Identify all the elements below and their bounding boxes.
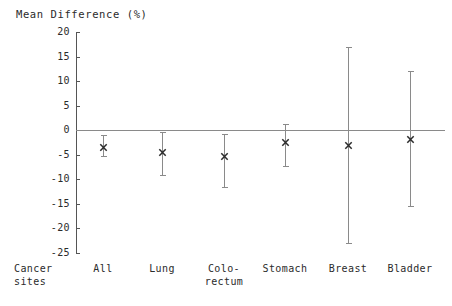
- y-tick-label-8: -20: [30, 222, 70, 233]
- y-tick-label-0: 20: [30, 26, 70, 37]
- data-point-1: [159, 133, 165, 176]
- y-tick-label-9: -25: [30, 247, 70, 258]
- y-tick-label-4: 0: [30, 124, 70, 135]
- y-tick-label-3: 5: [30, 100, 70, 111]
- mean-difference-chart: Mean Difference (%) 20151050-5-10-15-20-…: [0, 0, 452, 306]
- data-point-0: [100, 136, 106, 157]
- x-axis-title: Cancer sites: [14, 262, 53, 288]
- data-point-2: [221, 135, 227, 188]
- x-tick-label-bladder: Bladder: [370, 262, 450, 275]
- y-tick-label-5: -5: [30, 149, 70, 160]
- data-point-4: [345, 48, 351, 244]
- y-tick-label-2: 10: [30, 75, 70, 86]
- data-point-5: [407, 72, 413, 207]
- y-tick-label-7: -15: [30, 198, 70, 209]
- y-tick-label-1: 15: [30, 51, 70, 62]
- y-tick-label-6: -10: [30, 173, 70, 184]
